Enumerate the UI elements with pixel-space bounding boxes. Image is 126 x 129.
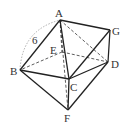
label-E: E xyxy=(50,44,57,56)
edge-CG xyxy=(69,30,110,79)
label-F: F xyxy=(64,112,70,124)
geometry-diagram: A G E B D C F 6 xyxy=(0,0,126,129)
label-D: D xyxy=(111,58,119,70)
edge-GD xyxy=(108,30,110,62)
label-B: B xyxy=(10,65,17,77)
label-G: G xyxy=(112,25,120,37)
edge-CF xyxy=(68,79,69,110)
edge-CD xyxy=(69,62,108,79)
edge-BF xyxy=(20,70,68,110)
label-C: C xyxy=(70,81,77,93)
edge-AG xyxy=(60,20,110,30)
edge-BC xyxy=(20,70,69,79)
label-length-6: 6 xyxy=(32,34,38,46)
label-A: A xyxy=(55,7,63,19)
